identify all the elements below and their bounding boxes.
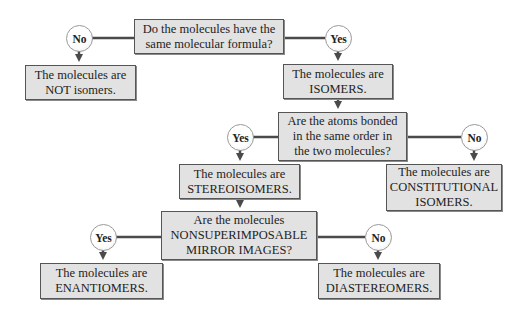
answer-no-circle: No bbox=[66, 25, 93, 52]
box-line: The molecules are bbox=[35, 68, 127, 83]
box-line: The molecules are bbox=[333, 266, 425, 281]
question-mirror-images: Are the molecules NONSUPERIMPOSABLE MIRR… bbox=[161, 211, 317, 260]
answer-label: Yes bbox=[330, 33, 347, 45]
box-line: Are the molecules bbox=[194, 213, 285, 228]
answer-yes-circle: Yes bbox=[90, 224, 117, 251]
question-bond-order: Are the atoms bonded in the same order i… bbox=[278, 112, 407, 161]
question-same-formula: Do the molecules have the same molecular… bbox=[134, 19, 284, 54]
answer-label: No bbox=[72, 33, 86, 45]
box-line: Are the atoms bonded bbox=[287, 114, 397, 129]
box-line: ISOMERS. bbox=[415, 195, 472, 210]
box-line: same molecular formula? bbox=[145, 37, 272, 52]
answer-label: Yes bbox=[232, 132, 249, 144]
box-line: The molecules are bbox=[292, 67, 384, 82]
box-line: NONSUPERIMPOSABLE bbox=[171, 228, 308, 243]
box-line: Do the molecules have the bbox=[143, 22, 276, 37]
result-diastereomers: The molecules are DIASTEREOMERS. bbox=[318, 263, 440, 299]
box-line: DIASTEREOMERS. bbox=[326, 281, 433, 296]
box-line: STEREOISOMERS. bbox=[187, 182, 292, 197]
box-line: CONSTITUTIONAL bbox=[390, 180, 498, 195]
box-line: MIRROR IMAGES? bbox=[186, 243, 292, 258]
box-line: in the same order in bbox=[293, 129, 392, 144]
answer-no-circle: No bbox=[365, 224, 392, 251]
result-enantiomers: The molecules are ENANTIOMERS. bbox=[40, 263, 163, 299]
box-line: The molecules are bbox=[56, 266, 148, 281]
result-stereoisomers: The molecules are STEREOISOMERS. bbox=[179, 164, 300, 199]
box-line: the two molecules? bbox=[294, 144, 391, 159]
answer-yes-circle: Yes bbox=[227, 124, 254, 151]
box-line: The molecules are bbox=[398, 165, 490, 180]
box-line: ENANTIOMERS. bbox=[55, 281, 148, 296]
answer-yes-circle: Yes bbox=[325, 25, 352, 52]
isomer-classification-flowchart: Do the molecules have the same molecular… bbox=[0, 0, 527, 317]
answer-label: No bbox=[467, 132, 481, 144]
box-line: NOT isomers. bbox=[45, 83, 116, 98]
result-not-isomers: The molecules are NOT isomers. bbox=[25, 65, 136, 100]
box-line: ISOMERS. bbox=[309, 82, 366, 97]
result-isomers: The molecules are ISOMERS. bbox=[283, 64, 393, 99]
box-line: The molecules are bbox=[194, 167, 286, 182]
answer-no-circle: No bbox=[461, 124, 488, 151]
answer-label: Yes bbox=[95, 232, 112, 244]
answer-label: No bbox=[371, 232, 385, 244]
result-constitutional-isomers: The molecules are CONSTITUTIONAL ISOMERS… bbox=[386, 164, 502, 211]
